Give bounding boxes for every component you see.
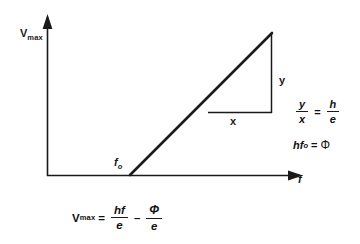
slope-equation-numerator-right: h bbox=[327, 98, 340, 112]
main-equation-term2-denominator: e bbox=[148, 219, 160, 232]
work-function-equation-lhs: hf bbox=[293, 139, 303, 151]
main-equation-lhs-subscript: max bbox=[80, 213, 96, 222]
slope-equation-left-fraction: y x bbox=[296, 98, 308, 125]
slope-equation-denominator-right: e bbox=[327, 112, 339, 125]
work-function-equation-operator: = bbox=[311, 139, 317, 151]
main-equation-term2-fraction: Φ e bbox=[146, 203, 162, 232]
main-equation-term2-numerator: Φ bbox=[146, 203, 162, 219]
y-axis-label: Vmax bbox=[20, 28, 43, 42]
main-equation-lhs: V bbox=[72, 212, 80, 224]
slope-equation-operator: = bbox=[314, 106, 320, 118]
threshold-frequency-label: fo bbox=[114, 157, 122, 171]
main-equation: Vmax = hf e – Φ e bbox=[72, 203, 165, 232]
y-axis bbox=[43, 14, 53, 176]
slope-equation-right-fraction: h e bbox=[327, 98, 340, 125]
slope-equation-denominator-left: x bbox=[296, 112, 308, 125]
data-line bbox=[130, 33, 272, 175]
main-equation-equals: = bbox=[98, 212, 105, 224]
x-axis bbox=[47, 171, 303, 181]
run-leg-label: x bbox=[230, 116, 236, 127]
y-axis-arrowhead bbox=[43, 14, 53, 29]
threshold-frequency-subscript: o bbox=[118, 162, 123, 171]
photoelectric-graph-figure: Vmax f fo y x y x = h e hfo = Φ Vmax = h… bbox=[0, 0, 360, 244]
main-equation-term1-numerator: hf bbox=[111, 204, 128, 218]
x-axis-label: f bbox=[298, 174, 302, 185]
y-axis-label-subscript: max bbox=[27, 33, 43, 42]
work-function-equation-lhs-subscript: o bbox=[303, 141, 308, 150]
main-equation-term1-denominator: e bbox=[113, 218, 125, 231]
slope-equation: y x = h e bbox=[293, 98, 342, 125]
main-equation-minus: – bbox=[134, 212, 140, 224]
rise-leg-label: y bbox=[279, 75, 285, 86]
main-equation-term1-fraction: hf e bbox=[111, 204, 128, 231]
slope-equation-numerator-left: y bbox=[296, 98, 308, 112]
work-function-equation: hfo = Φ bbox=[293, 138, 330, 152]
work-function-equation-rhs: Φ bbox=[320, 138, 330, 152]
